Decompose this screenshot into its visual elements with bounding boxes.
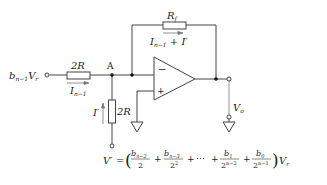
term4-denominator: 2n−1 <box>253 160 269 170</box>
input-label: bn−1Vr <box>9 70 39 82</box>
input-terminal <box>45 73 49 77</box>
shunt-current-label: I′ <box>92 107 100 118</box>
term3-numerator: b1 <box>224 149 232 159</box>
equation-rhs-vr: Vr <box>279 155 290 167</box>
term3-denominator: 2n−2 <box>221 160 237 170</box>
circuit-diagram: bn−1Vr 2R In−1 A Rf In−1 + I′ 2R I′ − + … <box>0 0 327 185</box>
term4-numerator: b0 <box>256 149 265 159</box>
shunt-resistor-2r <box>109 100 116 123</box>
series-current-label: In−1 <box>69 85 87 97</box>
paren-close: ) <box>272 150 279 170</box>
output-voltage-label: Vo <box>233 102 244 114</box>
ground-symbol-left <box>131 122 143 132</box>
shunt-current-arrowhead <box>102 103 105 108</box>
feedback-current-arrowhead <box>178 32 183 35</box>
series-resistor-label: 2R <box>70 60 85 71</box>
node-a-label: A <box>106 61 114 71</box>
series-current-arrowhead <box>84 82 89 85</box>
junction-dot-feedback <box>130 73 134 77</box>
ellipsis: ⋯ <box>196 154 205 164</box>
noninverting-ground-wire <box>137 91 154 122</box>
equation-equals: = <box>116 155 124 166</box>
term1-numerator: bn−2 <box>131 149 147 159</box>
junction-dot-output <box>214 77 218 81</box>
shunt-terminal <box>110 144 114 148</box>
term2-numerator: bn−3 <box>164 149 180 159</box>
node-a-dot <box>110 73 114 77</box>
plus-3: + <box>211 154 219 164</box>
opamp-plus-label: + <box>157 86 165 96</box>
term2-denominator: 22 <box>170 160 178 170</box>
feedback-resistor-rf <box>163 22 186 29</box>
plus-1: + <box>154 154 162 164</box>
equation-lhs: V′ <box>103 155 113 166</box>
feedback-resistor-label: Rf <box>166 10 179 23</box>
output-terminal <box>227 77 231 81</box>
feedback-current-label: In−1 + I′ <box>149 36 188 48</box>
plus-4: + <box>243 154 251 164</box>
ground-symbol-right <box>223 122 235 132</box>
shunt-resistor-label: 2R <box>116 106 131 117</box>
opamp-minus-label: − <box>158 64 166 75</box>
equation: V′ = ( bn−2 2 + bn−3 22 + ⋯ + b1 2n−2 + … <box>103 149 290 170</box>
vo-terminal <box>227 115 231 119</box>
series-resistor-2r <box>67 72 90 79</box>
plus-2: + <box>187 154 195 164</box>
term1-denominator: 2 <box>138 161 143 170</box>
